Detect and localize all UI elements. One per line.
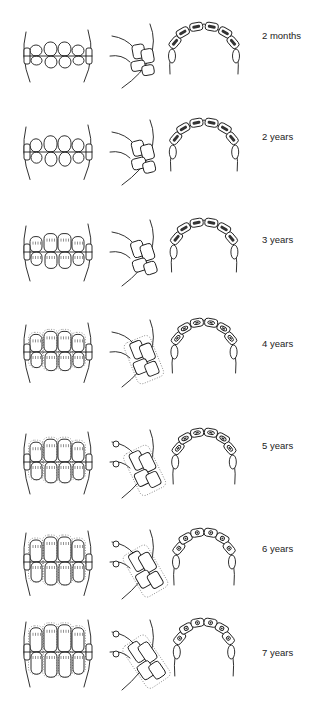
front-view-drawing: [24, 30, 92, 82]
occlusal-view-drawing: [170, 318, 238, 373]
side-view-drawing: [110, 320, 165, 387]
occlusal-view-drawing: [172, 528, 237, 585]
age-label: 2 years: [262, 131, 293, 142]
side-view-drawing: [110, 530, 170, 599]
occlusal-view-drawing: [172, 618, 235, 676]
age-stage-row: 2 months: [0, 4, 316, 104]
age-stage-row: 6 years: [0, 510, 316, 610]
age-label: 3 years: [262, 234, 293, 245]
age-stage-row: 5 years: [0, 410, 316, 510]
side-view-drawing: [110, 430, 167, 498]
front-view-drawing: [24, 323, 92, 383]
teeth-illustration: [0, 200, 250, 300]
front-view-drawing: [24, 620, 92, 687]
teeth-illustration: [0, 410, 250, 510]
occlusal-view-drawing: [168, 22, 240, 74]
age-stage-row: 4 years: [0, 300, 316, 400]
age-stage-row: 2 years: [0, 100, 316, 200]
front-view-drawing: [24, 531, 92, 596]
teeth-illustration: [0, 510, 250, 610]
front-view-drawing: [24, 432, 92, 494]
teeth-illustration: [0, 4, 250, 104]
age-stage-row: 3 years: [0, 200, 316, 300]
side-view-drawing: [110, 120, 158, 185]
teeth-illustration: [0, 600, 250, 700]
teeth-illustration: [0, 300, 250, 400]
side-view-drawing: [110, 620, 172, 690]
occlusal-view-drawing: [169, 218, 238, 272]
teeth-illustration: [0, 100, 250, 200]
age-label: 6 years: [262, 543, 293, 554]
front-view-drawing: [24, 224, 92, 281]
occlusal-view-drawing: [169, 118, 240, 171]
side-view-drawing: [110, 220, 160, 286]
age-label: 4 years: [262, 338, 293, 349]
age-label: 7 years: [262, 647, 293, 658]
age-stage-row: 7 years: [0, 600, 316, 700]
front-view-drawing: [24, 125, 92, 180]
side-view-drawing: [110, 24, 157, 88]
age-label: 2 months: [262, 30, 301, 41]
age-label: 5 years: [262, 440, 293, 451]
occlusal-view-drawing: [171, 428, 237, 484]
